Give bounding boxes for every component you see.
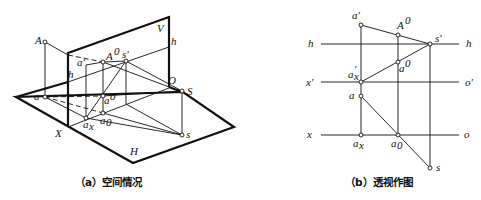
label-x: x [306, 128, 312, 140]
label-O: O [168, 74, 176, 86]
diagram-canvas: A a h h a' A 0 s' V O S a 0 a 0 a x X s … [0, 0, 481, 200]
point-a-prime [359, 23, 363, 27]
line-a-ax [45, 97, 86, 118]
point-S [180, 89, 184, 93]
label-s-prime: s' [435, 32, 442, 44]
line-a-prime-to-A0 [86, 62, 103, 65]
point-A0 [101, 60, 105, 64]
label-o: o [464, 128, 470, 140]
point-a [43, 95, 47, 99]
label-S: S [187, 85, 193, 97]
label-o-prime: o' [465, 76, 474, 88]
label-H: H [129, 145, 139, 157]
label-a: a [349, 89, 355, 101]
label-h-right: h [171, 35, 177, 47]
line-a-s [361, 96, 430, 168]
label-X: X [54, 127, 63, 139]
label-a-prime: a' [352, 9, 361, 21]
label-x-prime: x' [305, 76, 314, 88]
figure-a-spatial: A a h h a' A 0 s' V O S a 0 a 0 a x X s … [16, 17, 234, 188]
h-plane [16, 92, 234, 163]
point-a-sub0 [396, 133, 400, 137]
label-a-sub0-sub: 0 [106, 116, 112, 128]
label-ax-sub: x [358, 139, 364, 151]
horizon-line-left [45, 82, 68, 89]
line-A-A0-dashed [68, 55, 103, 62]
label-A: A [34, 34, 42, 46]
label-a-prime: a' [77, 56, 86, 68]
label-s: s [436, 161, 440, 173]
line-a-a0-lower-dashed [45, 97, 103, 113]
figure-b-construction: a' A 0 h h s' a 0 x' o' a x ' a x o a x … [305, 9, 474, 188]
point-s [428, 166, 432, 170]
caption-b: （b）透视作图 [345, 176, 413, 188]
label-A0-sup: 0 [114, 45, 120, 57]
point-A [43, 40, 47, 44]
label-a0-sup: 0 [405, 57, 411, 69]
caption-a: （a）空间情况 [75, 176, 143, 188]
point-s-prime [428, 42, 432, 46]
line-ax-prime-s-prime [361, 44, 430, 82]
line-s-prime-ax [86, 61, 126, 118]
line-a0-s [103, 113, 182, 135]
label-a: a [34, 90, 40, 102]
label-h-right: h [466, 37, 472, 49]
label-s-prime: s' [122, 48, 129, 60]
point-a [359, 94, 363, 98]
label-ax-sub: x [88, 120, 94, 132]
label-a-sub0-sub: 0 [397, 139, 403, 151]
label-A0: A [105, 50, 113, 62]
point-s [180, 133, 184, 137]
label-h-left: h [68, 68, 74, 80]
line-A-to-V [45, 42, 68, 55]
point-A0 [396, 33, 400, 37]
label-A0-sup: 0 [405, 14, 411, 26]
label-a0-upper-sup: 0 [110, 90, 116, 102]
label-h-left: h [308, 37, 314, 49]
line-a-prime-s-prime [361, 25, 430, 44]
point-ax-prime [359, 80, 363, 84]
line-A0-S [103, 62, 169, 87]
point-ax [359, 133, 363, 137]
label-A0: A [396, 19, 404, 31]
label-s: s [186, 128, 190, 140]
label-V: V [157, 22, 165, 34]
